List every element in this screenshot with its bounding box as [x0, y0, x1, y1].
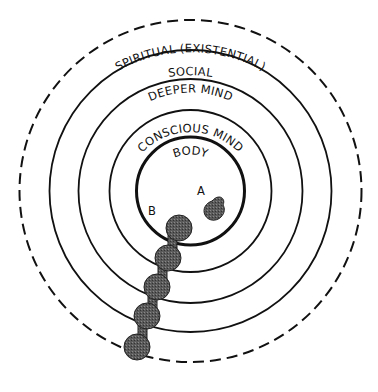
marker-a-label: A — [197, 184, 205, 198]
label-deeper-mind: DEEPER MIND — [146, 81, 235, 103]
label-social: SOCIAL — [167, 64, 214, 80]
marker-b-label: B — [148, 204, 156, 218]
concentric-layers-diagram: SPIRITUAL (EXISTENTIAL) SOCIAL DEEPER MI… — [0, 0, 378, 392]
blob-a — [204, 197, 224, 220]
ring-deeper-mind — [79, 79, 303, 303]
label-body: BODY — [171, 143, 211, 160]
